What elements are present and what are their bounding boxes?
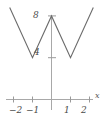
chart-figure: 8 4 −2 −1 1 2 x [0,0,105,123]
x-tick-label-minus-1: −1 [26,106,39,115]
y-tick-label-4: 4 [34,48,40,57]
x-tick-label-minus-2: −2 [9,106,22,115]
y-tick-label-8: 8 [33,11,39,20]
x-axis-label: x [95,92,100,100]
x-tick-label-1: 1 [64,106,70,115]
x-tick-label-2: 2 [81,106,87,115]
